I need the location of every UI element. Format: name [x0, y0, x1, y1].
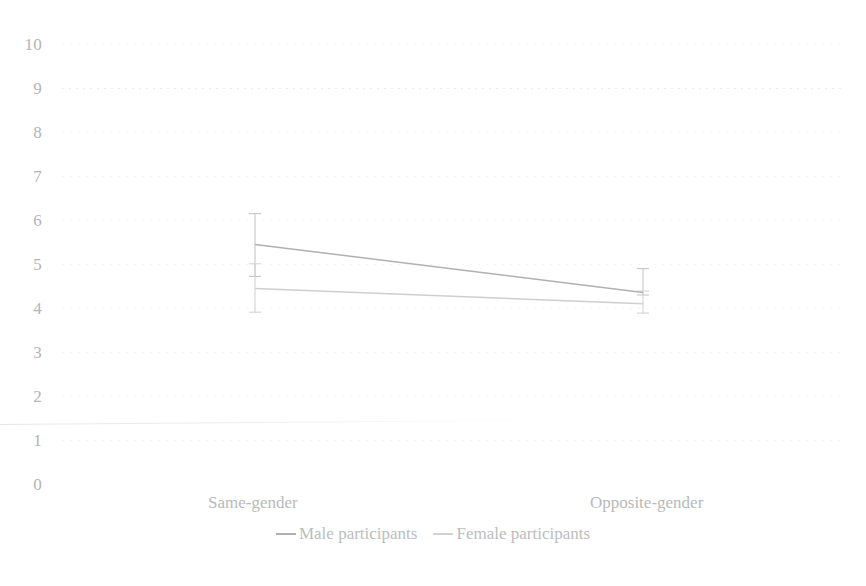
y-tick-label-1: 1 — [0, 432, 42, 449]
gridline-3 — [62, 352, 844, 353]
legend-label-male-participants: Male participants — [299, 525, 418, 542]
gridline-2 — [62, 396, 844, 397]
y-tick-label-9: 9 — [0, 80, 42, 97]
error-bar-female-opposite-gender — [637, 291, 649, 313]
gridline-7 — [62, 176, 844, 177]
error-bar-male-same-gender — [249, 214, 261, 277]
y-tick-label-3: 3 — [0, 344, 42, 361]
gridline-9 — [62, 88, 844, 89]
legend-line-swatch-icon — [433, 533, 453, 535]
y-tick-label-5: 5 — [0, 256, 42, 273]
legend-label-female-participants: Female participants — [456, 525, 590, 542]
y-tick-label-4: 4 — [0, 300, 42, 317]
x-category-label-same-gender: Same-gender — [208, 494, 298, 511]
gridline-4 — [62, 308, 844, 309]
x-category-label-opposite-gender: Opposite-gender — [590, 494, 703, 511]
y-tick-label-6: 6 — [0, 212, 42, 229]
gridline-8 — [62, 132, 844, 133]
legend-line-swatch-icon — [276, 533, 296, 535]
y-tick-label-10: 10 — [0, 36, 42, 53]
gridline-6 — [62, 220, 844, 221]
error-bar-female-same-gender — [249, 264, 261, 312]
y-tick-label-7: 7 — [0, 168, 42, 185]
series-line-female-participants — [255, 288, 643, 303]
y-tick-label-0: 0 — [0, 476, 42, 493]
legend-item-female-participants[interactable]: Female participants — [433, 525, 590, 542]
baseline-artifact — [0, 419, 580, 425]
gridline-10 — [62, 44, 844, 45]
error-bar-male-opposite-gender — [637, 269, 649, 295]
gridline-5 — [62, 264, 844, 265]
series-line-male-participants — [255, 244, 643, 292]
gridline-1 — [62, 440, 844, 441]
y-tick-label-8: 8 — [0, 124, 42, 141]
line-chart: 10 9 8 7 6 5 4 3 2 1 0 — [0, 0, 866, 586]
y-tick-label-2: 2 — [0, 388, 42, 405]
legend-item-male-participants[interactable]: Male participants — [276, 525, 418, 542]
chart-legend: Male participants Female participants — [0, 525, 866, 542]
